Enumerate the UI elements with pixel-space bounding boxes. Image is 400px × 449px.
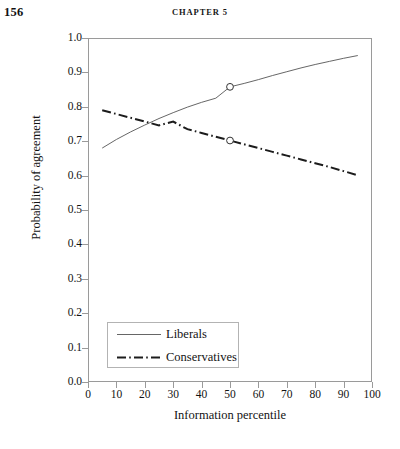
x-axis-tick-labels: 0102030405060708090100 <box>0 388 400 406</box>
y-axis-title: Probability of agreement <box>29 78 44 278</box>
y-tick-label: 0.4 <box>52 238 82 250</box>
x-tick-mark <box>202 382 203 388</box>
x-tick-mark <box>287 382 288 388</box>
x-tick-mark <box>116 382 117 388</box>
y-tick-mark <box>82 38 88 39</box>
marker-layer <box>227 83 234 143</box>
legend-label: Liberals <box>166 327 207 342</box>
y-tick-label: 0.8 <box>52 101 82 113</box>
chart-figure: 0.00.10.20.30.40.50.60.70.80.91.0 010203… <box>0 26 400 446</box>
x-tick-mark <box>315 382 316 388</box>
y-tick-label: 0.1 <box>52 342 82 354</box>
y-axis-tick-labels: 0.00.10.20.30.40.50.60.70.80.91.0 <box>52 26 82 394</box>
legend-line-sample <box>115 346 163 369</box>
running-head: CHAPTER 5 <box>0 7 400 17</box>
legend-item-liberals: Liberals <box>108 323 240 346</box>
y-tick-mark <box>82 210 88 211</box>
legend-item-conservatives: Conservatives <box>108 346 240 369</box>
y-tick-mark <box>82 244 88 245</box>
y-tick-mark <box>82 176 88 177</box>
y-tick-mark <box>82 72 88 73</box>
y-tick-label: 1.0 <box>52 32 82 44</box>
y-tick-label: 0.2 <box>52 307 82 319</box>
legend-label: Conservatives <box>166 350 237 365</box>
legend-line-sample <box>115 323 163 346</box>
data-point-marker <box>227 83 234 90</box>
y-tick-mark <box>82 279 88 280</box>
x-tick-mark <box>344 382 345 388</box>
y-tick-label: 0.9 <box>52 66 82 78</box>
x-axis-title: Information percentile <box>88 408 372 423</box>
y-tick-label: 0.5 <box>52 204 82 216</box>
x-tick-mark <box>173 382 174 388</box>
y-tick-label: 0.6 <box>52 170 82 182</box>
y-tick-mark <box>82 313 88 314</box>
series-line-liberals <box>102 56 358 149</box>
y-tick-mark <box>82 348 88 349</box>
x-tick-label: 100 <box>352 388 392 400</box>
y-tick-mark <box>82 107 88 108</box>
x-tick-mark <box>230 382 231 388</box>
y-tick-label: 0.7 <box>52 135 82 147</box>
book-page: 156 CHAPTER 5 0.00.10.20.30.40.50.60.70.… <box>0 0 400 449</box>
x-tick-mark <box>372 382 373 388</box>
chart-legend: LiberalsConservatives <box>107 322 239 368</box>
y-tick-label: 0.0 <box>52 376 82 388</box>
x-tick-mark <box>88 382 89 388</box>
x-tick-mark <box>258 382 259 388</box>
y-tick-label: 0.3 <box>52 273 82 285</box>
x-tick-mark <box>145 382 146 388</box>
data-point-marker <box>227 137 234 144</box>
y-tick-mark <box>82 141 88 142</box>
series-layer <box>102 56 358 176</box>
